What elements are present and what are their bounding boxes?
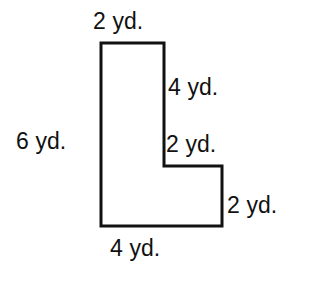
geometry-figure: 2 yd. 4 yd. 6 yd. 2 yd. 2 yd. 4 yd. — [0, 0, 314, 285]
dimension-label-right-lower: 2 yd. — [227, 194, 277, 217]
dimension-label-right-upper: 4 yd. — [168, 76, 218, 99]
dimension-label-left: 6 yd. — [16, 130, 66, 153]
dimension-label-top: 2 yd. — [93, 10, 143, 33]
dimension-label-bottom: 4 yd. — [110, 237, 160, 260]
dimension-label-inner-horizontal: 2 yd. — [166, 133, 216, 156]
